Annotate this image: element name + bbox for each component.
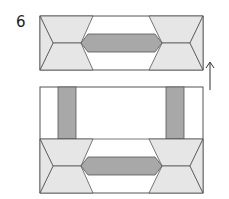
bottom-block [40, 87, 203, 193]
top-center-bar [81, 34, 162, 52]
quilt-assembly-diagram [0, 0, 229, 199]
bottom-center-bar [81, 157, 162, 175]
top-block [40, 16, 203, 70]
up-arrow-icon [206, 62, 214, 90]
bottom-right-post [166, 87, 184, 139]
bottom-left-post [58, 87, 76, 139]
